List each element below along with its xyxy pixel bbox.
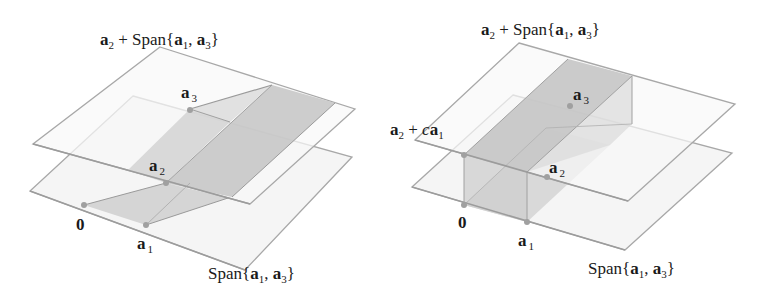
point-a3 <box>187 107 193 113</box>
label-point-0-left: 0 <box>76 215 85 234</box>
point-a2-plus-ca1 <box>461 152 467 158</box>
figure-right: a2 + Span{a1, a3} a2 + ca1 Span{a1, a3} … <box>390 20 735 280</box>
point-0 <box>81 202 87 208</box>
label-point-0-right: 0 <box>458 213 467 232</box>
diagram-canvas: a2 + Span{a1, a3} Span{a1, a3} 0 a1 a2 a… <box>0 0 759 295</box>
label-top-plane-left: a2 + Span{a1, a3} <box>100 30 219 51</box>
label-point-a1-right: a1 <box>518 231 534 252</box>
label-bottom-plane-left: Span{a1, a3} <box>208 264 295 285</box>
label-line-a2-plus-ca1: a2 + ca1 <box>390 120 444 141</box>
point-0-right <box>461 202 467 208</box>
point-a2 <box>163 180 169 186</box>
label-top-plane-right: a2 + Span{a1, a3} <box>481 20 600 41</box>
point-a1 <box>143 222 149 228</box>
label-bottom-plane-right: Span{a1, a3} <box>588 259 675 280</box>
figure-left: a2 + Span{a1, a3} Span{a1, a3} 0 a1 a2 a… <box>30 30 355 285</box>
point-a1-right <box>524 219 530 225</box>
label-point-a1-left: a1 <box>137 234 153 255</box>
